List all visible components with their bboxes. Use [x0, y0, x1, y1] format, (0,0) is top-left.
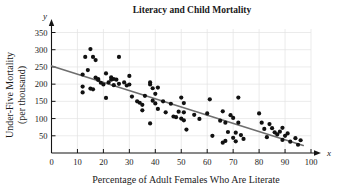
- data-point: [239, 133, 243, 137]
- data-point: [88, 47, 92, 51]
- x-tick-label: 30: [125, 157, 134, 167]
- data-point: [153, 92, 157, 96]
- data-point: [86, 68, 90, 72]
- data-point: [177, 110, 181, 114]
- data-point: [262, 127, 266, 131]
- data-point: [293, 136, 297, 140]
- data-point: [210, 134, 214, 138]
- data-point: [197, 117, 201, 121]
- data-point: [117, 55, 121, 59]
- x-tick-label: 70: [229, 157, 238, 167]
- data-point: [234, 139, 238, 143]
- data-point: [182, 118, 186, 122]
- x-tick-label: 20: [99, 157, 108, 167]
- data-point: [221, 109, 225, 113]
- y-axis-letter: y: [42, 11, 47, 21]
- scatter-points: [81, 47, 303, 147]
- data-point: [114, 78, 118, 82]
- data-point: [236, 121, 240, 125]
- data-point: [257, 111, 261, 115]
- data-point: [205, 111, 209, 115]
- data-point: [143, 94, 147, 98]
- y-axis-label-line2: (per thousand): [16, 66, 28, 124]
- chart-title: Literacy and Child Mortality: [133, 5, 252, 15]
- data-point: [101, 82, 105, 86]
- data-point: [223, 139, 227, 143]
- data-point: [208, 97, 212, 101]
- data-point: [91, 87, 95, 91]
- data-point: [234, 131, 238, 135]
- x-tick-label: 10: [73, 157, 82, 167]
- data-point: [223, 121, 227, 125]
- y-tick-label: 300: [35, 45, 48, 55]
- chart-svg: Literacy and Child Mortality 01020304050…: [0, 0, 338, 191]
- x-axis-label: Percentage of Adult Females Who Are Lite…: [92, 174, 280, 185]
- x-tick-label: 50: [177, 157, 186, 167]
- scatter-chart-figure: Literacy and Child Mortality 01020304050…: [0, 0, 338, 191]
- data-point: [288, 140, 292, 144]
- data-point: [278, 130, 282, 134]
- x-tick-label: 80: [255, 157, 264, 167]
- data-point: [231, 116, 235, 120]
- data-point: [151, 86, 155, 90]
- data-point: [140, 103, 144, 107]
- x-axis-arrow: [314, 150, 321, 155]
- data-point: [156, 107, 160, 111]
- data-point: [148, 82, 152, 86]
- data-point: [127, 82, 131, 86]
- data-point: [140, 108, 144, 112]
- data-point: [156, 85, 160, 89]
- data-point: [112, 83, 116, 87]
- data-point: [218, 119, 222, 123]
- x-tick-label: 90: [281, 157, 290, 167]
- data-point: [179, 95, 183, 99]
- data-point: [267, 122, 271, 126]
- data-point: [265, 135, 269, 139]
- x-tick-label: 100: [305, 157, 318, 167]
- data-point: [286, 131, 290, 135]
- y-axis-label-line1: Under-Five Mortality: [4, 52, 15, 138]
- data-point: [81, 84, 85, 88]
- data-point: [296, 143, 300, 147]
- data-point: [81, 90, 85, 94]
- x-tick-label: 0: [49, 157, 53, 167]
- data-point: [161, 99, 165, 103]
- data-point: [153, 101, 157, 105]
- data-point: [130, 94, 134, 98]
- data-point: [117, 82, 121, 86]
- data-point: [182, 101, 186, 105]
- data-point: [270, 126, 274, 130]
- data-point: [127, 74, 131, 78]
- data-point: [169, 102, 173, 106]
- y-tick-label: 250: [35, 62, 48, 72]
- data-point: [104, 71, 108, 75]
- data-point: [236, 95, 240, 99]
- data-point: [104, 96, 108, 100]
- data-point: [299, 138, 303, 142]
- data-point: [260, 121, 264, 125]
- data-point: [182, 110, 186, 114]
- data-point: [164, 110, 168, 114]
- y-tick-label: 350: [35, 28, 48, 38]
- y-tick-label: 200: [35, 79, 48, 89]
- y-axis-label: Under-Five Mortality (per thousand): [4, 52, 28, 138]
- x-tick-label: 60: [203, 157, 212, 167]
- data-point: [148, 121, 152, 125]
- data-point: [192, 113, 196, 117]
- x-axis-letter: x: [326, 148, 331, 158]
- data-point: [184, 127, 188, 131]
- x-tick-label: 40: [151, 157, 160, 167]
- regression-line: [52, 66, 304, 146]
- data-point: [241, 137, 245, 141]
- data-point: [174, 115, 178, 119]
- y-axis-arrow: [49, 19, 54, 26]
- y-tick-label: 100: [35, 114, 48, 124]
- data-point: [83, 55, 87, 59]
- data-point: [226, 130, 230, 134]
- data-point: [94, 58, 98, 62]
- data-point: [81, 72, 85, 76]
- y-tick-label: 150: [35, 96, 48, 106]
- data-point: [280, 138, 284, 142]
- data-point: [280, 126, 284, 130]
- data-point: [231, 136, 235, 140]
